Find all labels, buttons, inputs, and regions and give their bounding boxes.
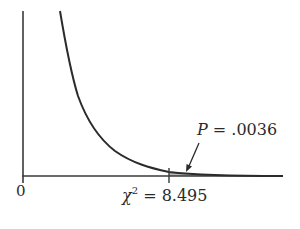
chi-symbol: χ xyxy=(122,186,132,205)
chi-value: = 8.495 xyxy=(138,186,207,205)
p-value-arrow xyxy=(189,143,199,166)
density-curve xyxy=(60,11,283,176)
x-origin-label: 0 xyxy=(16,184,26,199)
p-symbol: P xyxy=(197,120,208,139)
test-statistic-label: χ2 = 8.495 xyxy=(122,186,207,204)
arrow-head-icon xyxy=(186,164,192,172)
p-value: = .0036 xyxy=(208,120,277,139)
p-value-label: P = .0036 xyxy=(197,122,277,138)
